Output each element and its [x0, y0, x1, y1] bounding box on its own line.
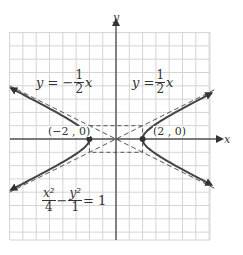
- equation-label: x² 4 − y² 1 = 1: [42, 186, 106, 214]
- equation-rhs: = 1: [83, 194, 106, 207]
- asymptote-pos-var: x: [166, 76, 173, 89]
- asymptote-pos-lhs: y =: [132, 76, 154, 89]
- minus-sign: −: [57, 194, 68, 207]
- vertex-label-left: (−2 , 0): [48, 126, 90, 137]
- asymptote-label-positive: y = 1 2 x: [132, 69, 173, 96]
- fraction-denominator: 2: [156, 83, 164, 96]
- fraction-denominator: 4: [45, 201, 53, 214]
- equation-term-y: y² 1: [68, 187, 82, 214]
- vertex-label-right: (2 , 0): [153, 126, 186, 137]
- asymptote-label-negative: y = − 1 2 x: [36, 69, 92, 96]
- fraction-numerator: x²: [42, 187, 56, 201]
- y-axis-label: y: [113, 12, 119, 23]
- x-axis-label: x: [224, 134, 230, 145]
- asymptote-neg-fraction: 1 2: [74, 69, 84, 96]
- asymptote-pos-fraction: 1 2: [155, 69, 165, 96]
- fraction-numerator: 1: [155, 69, 165, 83]
- equation-term-x: x² 4: [42, 187, 56, 214]
- fraction-denominator: 2: [75, 83, 83, 96]
- hyperbola-plot: [0, 0, 243, 255]
- fraction-denominator: 1: [71, 201, 79, 214]
- fraction-numerator: 1: [74, 69, 84, 83]
- asymptote-neg-lhs: y = −: [36, 76, 73, 89]
- fraction-numerator: y²: [68, 187, 82, 201]
- asymptote-neg-var: x: [85, 76, 92, 89]
